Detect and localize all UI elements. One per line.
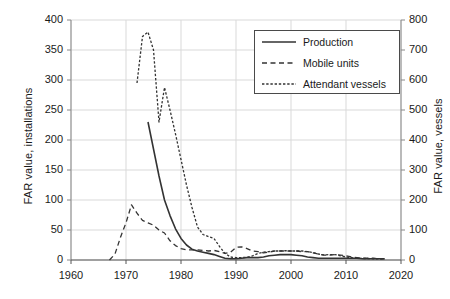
legend-label-mobile-units: Mobile units: [303, 57, 359, 69]
series-line-mobile-units: [110, 205, 385, 260]
legend-label-production: Production: [303, 36, 353, 48]
legend-item-attendant-vessels: Attendant vessels: [255, 73, 399, 94]
legend-swatch-dotted: [261, 79, 297, 89]
legend-label-attendant-vessels: Attendant vessels: [303, 78, 386, 90]
legend-swatch-dashed: [261, 58, 297, 68]
chart-container: FAR value, installations FAR value, vess…: [0, 0, 450, 299]
series-line-production: [148, 122, 385, 259]
legend: Production Mobile units Attendant vessel…: [254, 30, 400, 94]
legend-swatch-solid: [261, 37, 297, 47]
legend-item-mobile-units: Mobile units: [255, 52, 399, 73]
legend-item-production: Production: [255, 31, 399, 52]
